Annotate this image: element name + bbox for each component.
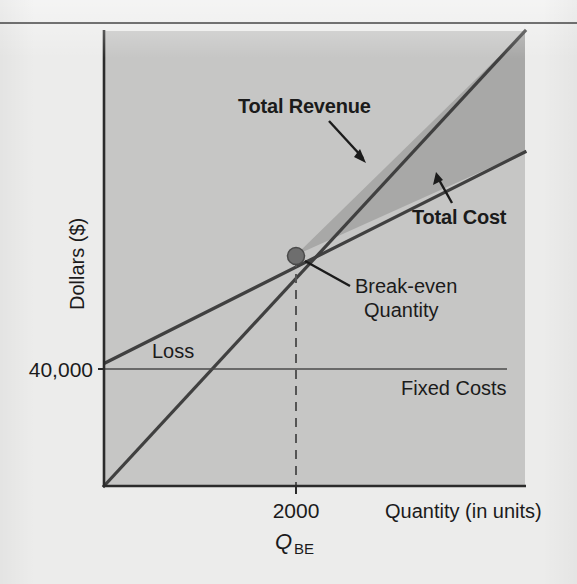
- total-revenue-label: Total Revenue: [238, 95, 371, 117]
- x-axis-tick-label: 2000: [273, 499, 320, 522]
- x-axis-symbol: Q: [275, 529, 292, 554]
- loss-label: Loss: [152, 340, 194, 362]
- figure-page: Total Revenue Total Cost Break-even Quan…: [0, 0, 577, 584]
- x-axis-symbol-subscript: BE: [294, 540, 314, 557]
- y-axis-tick-label: 40,000: [29, 358, 93, 381]
- break-even-chart: Total Revenue Total Cost Break-even Quan…: [0, 0, 577, 584]
- x-axis-title: Quantity (in units): [385, 500, 542, 522]
- break-even-point-marker: [288, 248, 305, 265]
- x-axis-symbol-group: Q BE: [275, 529, 314, 557]
- break-even-label-line1: Break-even: [355, 275, 457, 297]
- total-cost-label: Total Cost: [412, 206, 507, 228]
- fixed-costs-label: Fixed Costs: [401, 377, 507, 399]
- y-axis-title: Dollars ($): [66, 218, 88, 310]
- break-even-label-line2: Quantity: [364, 299, 438, 321]
